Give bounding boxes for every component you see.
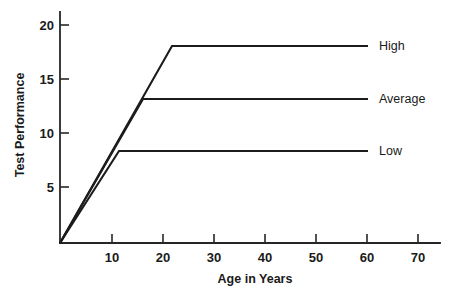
series-label-low: Low	[379, 144, 403, 158]
x-tick-label-30: 30	[207, 250, 221, 265]
y-tick-label-5: 5	[47, 180, 54, 195]
series-label-high: High	[379, 39, 405, 53]
y-tick-label-10: 10	[40, 126, 54, 141]
y-tick-label-20: 20	[40, 18, 54, 33]
x-tick-label-20: 20	[156, 250, 170, 265]
x-tick-label-60: 60	[360, 250, 374, 265]
x-axis-title: Age in Years	[218, 272, 293, 286]
chart-canvas: 20 15 10 5 10 20 30 40 50 60 70 Age in Y…	[0, 0, 453, 292]
growth-curve-chart: 20 15 10 5 10 20 30 40 50 60 70 Age in Y…	[0, 0, 453, 292]
x-tick-label-10: 10	[105, 250, 119, 265]
x-tick-label-50: 50	[309, 250, 323, 265]
y-axis-ticks	[60, 25, 69, 187]
x-tick-label-40: 40	[258, 250, 272, 265]
series-label-average: Average	[379, 92, 425, 106]
x-tick-label-70: 70	[411, 250, 425, 265]
x-axis-ticks	[112, 234, 418, 243]
y-tick-label-15: 15	[40, 72, 54, 87]
y-axis-title: Test Performance	[13, 73, 27, 178]
series-line-high	[60, 46, 368, 243]
